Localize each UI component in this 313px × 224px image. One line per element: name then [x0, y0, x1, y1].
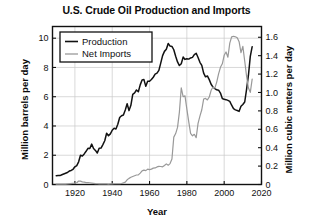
svg-text:1.0: 1.0 — [266, 88, 279, 98]
svg-text:Production: Production — [82, 36, 127, 47]
svg-text:6: 6 — [43, 92, 48, 102]
svg-text:1960: 1960 — [140, 188, 160, 198]
svg-text:0.8: 0.8 — [266, 106, 279, 116]
svg-text:1980: 1980 — [177, 188, 197, 198]
svg-text:1.2: 1.2 — [266, 69, 279, 79]
svg-text:0.4: 0.4 — [266, 143, 279, 153]
svg-text:4: 4 — [43, 121, 48, 131]
svg-text:0: 0 — [43, 180, 48, 190]
chart-legend: ProductionNet Imports — [60, 32, 152, 62]
svg-text:1940: 1940 — [102, 188, 122, 198]
svg-text:2000: 2000 — [214, 188, 234, 198]
svg-text:0.6: 0.6 — [266, 124, 279, 134]
svg-text:8: 8 — [43, 63, 48, 73]
svg-text:1.6: 1.6 — [266, 32, 279, 42]
chart-figure: U.S. Crude Oil Production and Imports Mi… — [0, 0, 313, 224]
svg-text:1920: 1920 — [65, 188, 85, 198]
svg-text:10: 10 — [38, 33, 48, 43]
svg-text:1.4: 1.4 — [266, 51, 279, 61]
svg-text:Net Imports: Net Imports — [82, 48, 131, 59]
plot-area: 192019401960198020002020024681000.20.40.… — [0, 0, 313, 224]
svg-text:2: 2 — [43, 150, 48, 160]
svg-text:0: 0 — [266, 180, 271, 190]
svg-text:0.2: 0.2 — [266, 161, 279, 171]
